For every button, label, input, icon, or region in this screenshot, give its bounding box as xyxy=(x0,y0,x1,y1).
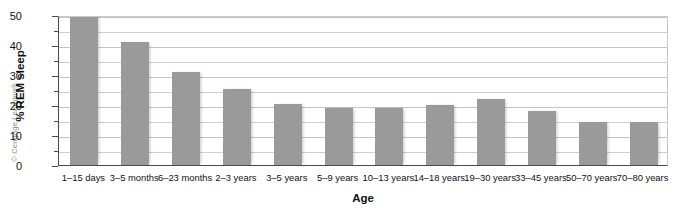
x-axis-tick-labels: 1–15 days3–5 months6–23 months2–3 years3… xyxy=(58,172,668,188)
x-tick-label: 70–80 years xyxy=(617,172,669,183)
x-tick-label: 6–23 months xyxy=(158,172,212,183)
bar-series xyxy=(59,17,667,165)
bar xyxy=(375,108,403,165)
x-tick-label: 3–5 years xyxy=(266,172,307,183)
plot-area xyxy=(58,16,668,166)
x-tick-label: 2–3 years xyxy=(215,172,256,183)
rem-sleep-bar-chart: © Cengage Learning® % REM sleep 01020304… xyxy=(0,0,685,214)
plot-wrapper xyxy=(58,16,668,166)
x-tick-label: 3–5 months xyxy=(110,172,159,183)
y-tick-label-10: 10 xyxy=(0,130,22,142)
bar xyxy=(172,72,200,165)
x-tick-label: 33–45 years xyxy=(515,172,567,183)
y-tick-label-30: 30 xyxy=(0,70,22,82)
x-tick-label: 10–13 years xyxy=(363,172,415,183)
x-axis-title: Age xyxy=(58,192,668,204)
y-tick-label-20: 20 xyxy=(0,100,22,112)
bar xyxy=(70,16,98,165)
bar xyxy=(528,111,556,165)
bar xyxy=(274,104,302,166)
y-tick-mark-0 xyxy=(52,166,58,167)
y-tick-label-40: 40 xyxy=(0,40,22,52)
bar xyxy=(630,122,658,166)
bar xyxy=(579,122,607,166)
bar xyxy=(121,42,149,165)
x-tick-label: 19–30 years xyxy=(464,172,516,183)
x-tick-label: 5–9 years xyxy=(317,172,358,183)
bar xyxy=(477,99,505,165)
bar xyxy=(325,108,353,165)
x-tick-label: 50–70 years xyxy=(566,172,618,183)
y-tick-label-50: 50 xyxy=(0,10,22,22)
bar xyxy=(426,105,454,165)
x-tick-label: 14–18 years xyxy=(413,172,465,183)
y-tick-label-0: 0 xyxy=(0,160,22,172)
x-tick-label: 1–15 days xyxy=(62,172,105,183)
bar xyxy=(223,89,251,166)
